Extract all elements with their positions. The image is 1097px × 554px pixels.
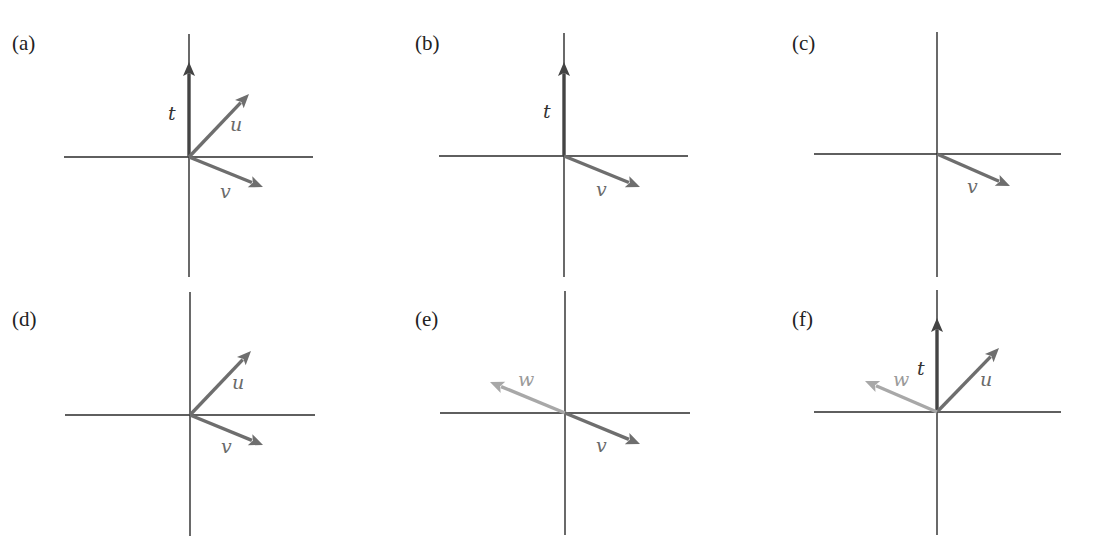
vector-u: u	[190, 351, 251, 415]
vector-w: w	[865, 368, 937, 412]
vector-label-v: v	[596, 434, 607, 456]
vector-u: u	[189, 94, 249, 157]
vector-label-u: u	[232, 371, 244, 393]
vector-v: v	[937, 154, 1010, 197]
panel-label: (a)	[12, 31, 35, 55]
vector-t: t	[168, 62, 195, 157]
panel-b: (b)tv	[415, 31, 688, 277]
vector-t: t	[543, 62, 570, 156]
panel-a: (a)tuv	[12, 31, 313, 277]
panel-label: (f)	[792, 307, 813, 331]
vector-v: v	[565, 413, 640, 456]
vector-label-t: t	[917, 357, 925, 379]
panel-label: (d)	[12, 307, 37, 331]
vector-label-v: v	[221, 435, 232, 457]
panel-label: (e)	[415, 307, 438, 331]
panel-f: (f)tuw	[792, 290, 1061, 535]
vector-u: u	[937, 348, 999, 412]
vector-label-t: t	[168, 102, 176, 124]
vector-diagram-figure: (a)tuv(b)tv(c)v(d)uv(e)wv(f)tuw	[0, 0, 1097, 554]
vector-label-u: u	[230, 113, 242, 135]
vector-v: v	[190, 415, 263, 457]
vector-shaft	[501, 387, 565, 413]
panel-label: (c)	[792, 31, 815, 55]
vector-label-v: v	[220, 180, 231, 202]
panel-d: (d)uv	[12, 292, 315, 536]
vector-v: v	[189, 157, 263, 202]
vector-label-w: w	[518, 368, 534, 390]
vector-label-v: v	[967, 175, 978, 197]
panel-label: (b)	[415, 31, 440, 55]
vector-v: v	[564, 156, 640, 200]
vector-label-t: t	[543, 100, 551, 122]
panel-e: (e)wv	[415, 291, 690, 535]
vector-t: t	[917, 318, 943, 412]
vector-label-w: w	[893, 368, 909, 390]
vector-shaft	[189, 157, 252, 182]
vector-label-v: v	[596, 178, 607, 200]
vector-w: w	[490, 368, 565, 413]
vector-label-u: u	[980, 368, 992, 390]
panel-c: (c)v	[792, 31, 1061, 277]
